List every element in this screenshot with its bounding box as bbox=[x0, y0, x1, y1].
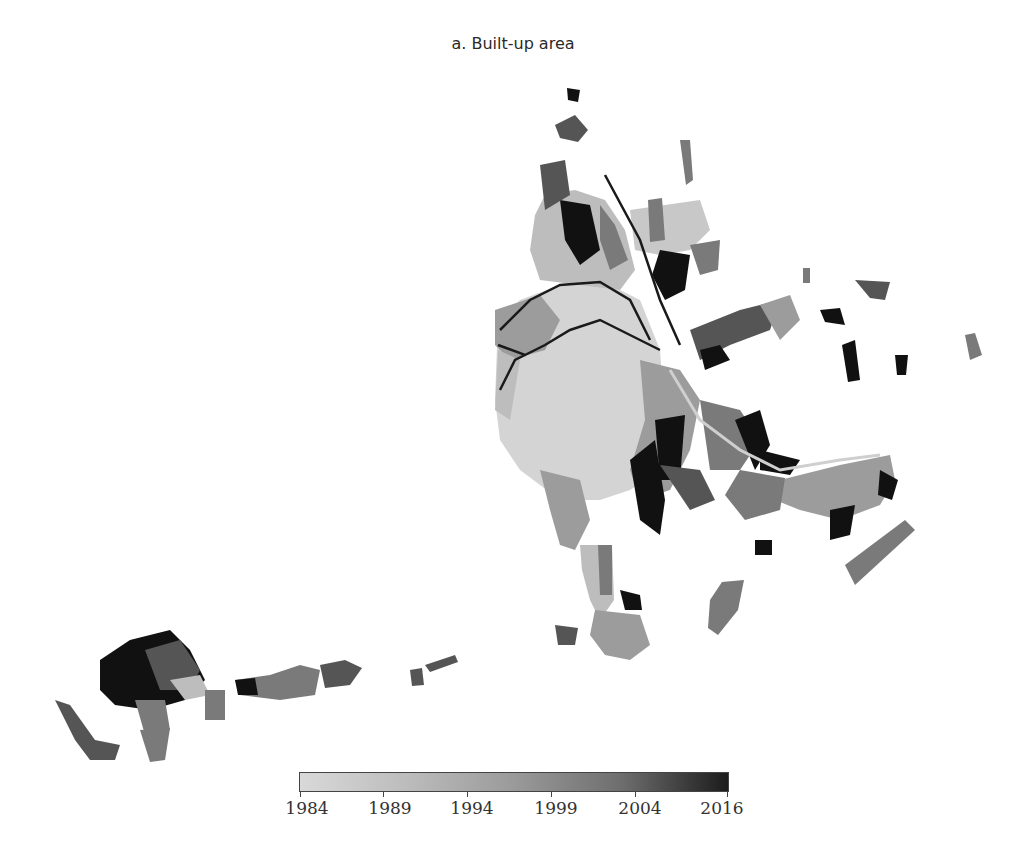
colorbar-label: 2004 bbox=[610, 798, 670, 818]
colorbar-label: 1989 bbox=[360, 798, 420, 818]
colorbar-tick bbox=[727, 792, 728, 797]
colorbar-tick bbox=[300, 792, 301, 797]
colorbar-tick bbox=[551, 792, 552, 797]
colorbar-tick bbox=[467, 792, 468, 797]
colorbar-label: 2016 bbox=[692, 798, 752, 818]
colorbar-label: 1984 bbox=[277, 798, 337, 818]
main-city bbox=[495, 160, 915, 660]
western-settlements bbox=[55, 630, 458, 762]
colorbar-label: 1999 bbox=[526, 798, 586, 818]
colorbar-label: 1994 bbox=[442, 798, 502, 818]
built-up-area-map bbox=[0, 0, 1026, 864]
colorbar bbox=[299, 772, 729, 792]
colorbar-tick bbox=[635, 792, 636, 797]
colorbar-tick bbox=[383, 792, 384, 797]
